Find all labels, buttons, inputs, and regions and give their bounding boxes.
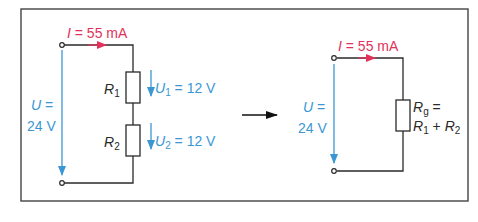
right-current-label: I = 55 mA xyxy=(338,38,399,54)
rg-label-line2: R1 + R2 xyxy=(413,118,461,136)
terminal-top xyxy=(60,43,65,48)
terminal-bottom xyxy=(60,181,65,186)
circuit-diagram: I = 55 mA U = 24 V R1 R2 U1 = 12 V U2 = … xyxy=(0,0,478,222)
right-terminal-bottom xyxy=(332,169,337,174)
right-terminal-top xyxy=(332,56,337,61)
source-voltage-label-line1: U = xyxy=(31,97,53,113)
source-voltage-label-line2: 24 V xyxy=(27,118,56,134)
resistor-rg xyxy=(396,100,410,131)
resistor-r1 xyxy=(126,72,140,103)
right-source-voltage-label-line2: 24 V xyxy=(298,120,327,136)
current-label: I = 55 mA xyxy=(67,25,128,41)
u1-label: U1 = 12 V xyxy=(155,80,216,98)
right-source-voltage-label-line1: U = xyxy=(303,99,325,115)
u2-label: U2 = 12 V xyxy=(155,133,216,151)
resistor-r2 xyxy=(126,125,140,156)
